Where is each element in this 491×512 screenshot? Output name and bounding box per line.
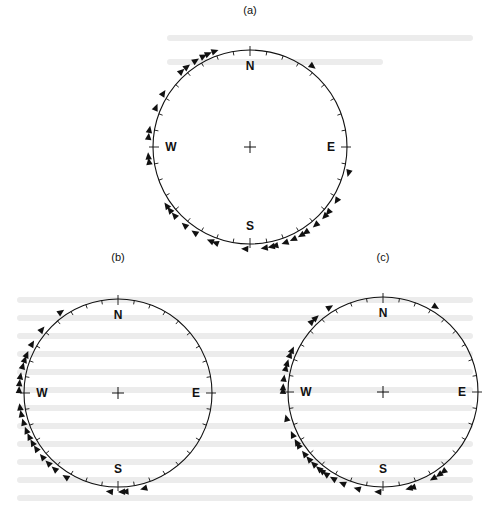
tick-mark [266,51,267,55]
tick-mark [310,450,313,453]
tick-mark [322,462,325,465]
stereonet-figure: NSEWNSEWNSEW [0,0,491,512]
triangle-marker-icon [346,169,352,177]
tick-mark [58,462,61,465]
triangle-marker-icon [28,340,34,348]
tick-mark [310,73,313,76]
triangle-marker-icon [140,485,148,491]
tick-mark [414,303,415,307]
triangle-marker-icon [16,379,22,386]
triangle-marker-icon [284,414,290,422]
tick-mark [154,163,158,164]
tick-mark [71,471,73,474]
triangle-marker-icon [152,104,158,112]
cardinal-label-s: S [379,462,387,476]
triangle-marker-icon [40,454,47,462]
triangle-marker-icon [308,62,316,69]
tick-mark [25,377,29,378]
triangle-marker-icon [283,359,289,367]
stereonet-b: NSEW [16,295,216,495]
tick-mark [46,333,49,336]
tick-mark [187,451,190,454]
tick-mark [301,345,304,347]
triangle-marker-icon [56,310,64,317]
cardinal-label-n: N [379,306,388,320]
tick-mark [351,303,352,307]
triangle-marker-icon [182,223,190,230]
tick-mark [282,56,283,60]
triangle-marker-icon [261,244,269,250]
triangle-marker-icon [280,383,286,390]
tick-mark [176,321,179,324]
tick-mark [188,218,191,221]
cardinal-label-w: W [165,140,177,154]
triangle-marker-icon [19,362,25,370]
tick-mark [196,438,199,440]
tick-mark [367,298,368,302]
tick-mark [469,360,473,361]
triangle-marker-icon [325,305,333,312]
triangle-marker-icon [211,49,219,55]
cardinal-label-s: S [246,219,254,233]
tick-mark [282,234,283,238]
tick-mark [30,424,34,425]
tick-mark [289,408,293,409]
tick-mark [176,462,179,465]
triangle-marker-icon [282,239,290,245]
tick-mark [86,305,87,309]
tick-mark [166,194,169,196]
triangle-marker-icon [146,126,152,134]
tick-mark [134,300,135,304]
tick-mark [462,438,465,440]
tick-mark [342,130,346,131]
triangle-marker-icon [30,439,36,447]
triangle-marker-icon [37,327,44,335]
tick-mark [399,482,400,486]
cardinal-label-e: E [327,140,335,154]
tick-mark [188,73,191,76]
tick-mark [217,56,218,60]
tick-mark [149,305,150,309]
tick-mark [30,361,34,362]
tick-mark [429,471,431,474]
triangle-marker-icon [405,485,413,491]
triangle-marker-icon [268,243,276,249]
triangle-marker-icon [106,489,113,495]
tick-mark [203,361,207,362]
tick-mark [159,179,163,180]
tick-mark [71,312,73,315]
tick-mark [163,312,165,315]
triangle-marker-icon [339,482,347,488]
tick-mark [301,438,304,440]
triangle-marker-icon [374,489,381,495]
tick-mark [336,310,338,313]
triangle-marker-icon [159,90,166,98]
tick-mark [233,51,234,55]
triangle-marker-icon [21,419,27,427]
tick-mark [159,114,163,115]
tick-mark [196,346,199,348]
triangle-marker-icon [354,486,362,492]
tick-mark [310,331,313,334]
cardinal-label-w: W [36,386,48,400]
triangle-marker-icon [191,231,199,238]
cardinal-label-w: W [300,385,312,399]
tick-mark [37,438,40,440]
tick-mark [321,85,324,88]
cardinal-label-n: N [114,308,123,322]
tick-mark [37,346,40,348]
tick-mark [187,333,190,336]
triangle-marker-icon [291,431,297,439]
tick-mark [351,478,352,482]
tick-mark [203,424,207,425]
tick-mark [414,478,415,482]
tick-mark [233,239,234,243]
tick-mark [331,194,334,196]
tick-mark [217,234,218,238]
tick-mark [289,376,293,377]
tick-mark [469,423,473,424]
tick-mark [337,179,341,180]
triangle-marker-icon [431,303,439,310]
triangle-marker-icon [241,246,248,252]
triangle-marker-icon [145,152,151,159]
